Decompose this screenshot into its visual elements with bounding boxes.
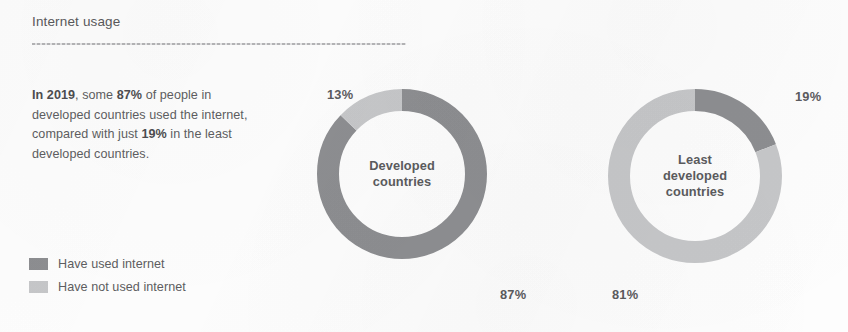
legend-label-have-used: Have used internet bbox=[58, 257, 165, 271]
donut-least-developed-svg bbox=[607, 88, 783, 264]
legend-item-have-used: Have used internet bbox=[29, 252, 186, 275]
legend-label-have-not-used: Have not used internet bbox=[58, 280, 186, 294]
chart-legend: Have used internet Have not used interne… bbox=[29, 252, 186, 298]
pct-label-developed-not-used: 13% bbox=[327, 87, 353, 102]
pct-label-developed-used: 87% bbox=[500, 287, 526, 302]
page-title: Internet usage bbox=[32, 14, 120, 29]
pct-label-least-developed-used: 19% bbox=[795, 89, 821, 104]
legend-swatch-have-not-used bbox=[29, 281, 48, 293]
summary-year: In 2019 bbox=[32, 88, 75, 102]
summary-text: In 2019, some 87% of people in developed… bbox=[32, 86, 262, 164]
legend-swatch-have-used bbox=[29, 258, 48, 270]
pct-label-least-developed-not-used: 81% bbox=[612, 287, 638, 302]
donut-developed-svg bbox=[316, 88, 488, 260]
summary-developed-pct: 87% bbox=[117, 88, 142, 102]
internet-usage-infographic: Internet usage In 2019, some 87% of peop… bbox=[0, 0, 848, 332]
donut-chart-least-developed-countries: Least developed countries bbox=[607, 88, 783, 264]
summary-text-part2: , some bbox=[75, 88, 117, 102]
legend-item-have-not-used: Have not used internet bbox=[29, 275, 186, 298]
summary-least-developed-pct: 19% bbox=[141, 127, 166, 141]
title-divider bbox=[32, 43, 406, 45]
donut-chart-developed-countries: Developed countries bbox=[316, 88, 488, 260]
